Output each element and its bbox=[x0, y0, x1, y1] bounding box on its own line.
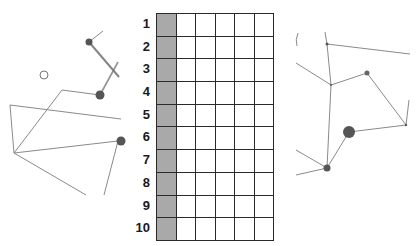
grid-cell bbox=[215, 104, 235, 127]
grid-cell bbox=[176, 104, 196, 127]
shaded-cell bbox=[157, 127, 177, 150]
grid-cell bbox=[235, 14, 255, 37]
grid-row bbox=[157, 82, 274, 105]
grid-cell bbox=[176, 150, 196, 173]
grid-cell bbox=[235, 150, 255, 173]
grid-cell bbox=[235, 104, 255, 127]
row-label: 8 bbox=[120, 172, 150, 195]
grid-cell bbox=[235, 59, 255, 82]
grid-row bbox=[157, 172, 274, 195]
star-dot-icon bbox=[330, 84, 332, 86]
grid-cell bbox=[215, 195, 235, 218]
grid-cell bbox=[215, 150, 235, 173]
star-dot-icon bbox=[405, 124, 407, 126]
star-dot-icon bbox=[365, 71, 370, 76]
recording-grid bbox=[156, 13, 274, 241]
shaded-cell bbox=[157, 218, 177, 241]
grid-cell bbox=[176, 14, 196, 37]
row-label: 6 bbox=[120, 126, 150, 149]
grid-cell bbox=[235, 82, 255, 105]
open-star-icon bbox=[40, 71, 48, 79]
grid-cell bbox=[176, 82, 196, 105]
grid-cell bbox=[196, 36, 216, 59]
grid-cell bbox=[196, 104, 216, 127]
grid-cell bbox=[215, 172, 235, 195]
grid-cell bbox=[254, 127, 274, 150]
row-label: 9 bbox=[120, 195, 150, 218]
shaded-cell bbox=[157, 195, 177, 218]
row-label: 3 bbox=[120, 58, 150, 81]
grid-cell bbox=[254, 36, 274, 59]
grid-cell bbox=[215, 36, 235, 59]
row-label: 2 bbox=[120, 36, 150, 59]
grid-cell bbox=[235, 172, 255, 195]
shaded-cell bbox=[157, 14, 177, 37]
grid-cell bbox=[254, 195, 274, 218]
grid-cell bbox=[254, 218, 274, 241]
grid-cell bbox=[176, 59, 196, 82]
shaded-cell bbox=[157, 59, 177, 82]
grid-row bbox=[157, 195, 274, 218]
shaded-cell bbox=[157, 172, 177, 195]
grid-cell bbox=[196, 150, 216, 173]
grid-cell bbox=[196, 172, 216, 195]
grid-cell bbox=[254, 59, 274, 82]
star-dot-icon bbox=[326, 43, 329, 46]
grid-row bbox=[157, 127, 274, 150]
row-labels: 1 2 3 4 5 6 7 8 9 10 bbox=[120, 13, 150, 240]
shaded-cell bbox=[157, 104, 177, 127]
grid-cell bbox=[215, 218, 235, 241]
grid-cell bbox=[196, 14, 216, 37]
star-dot-icon bbox=[96, 91, 105, 100]
grid-row bbox=[157, 104, 274, 127]
grid-cell bbox=[176, 195, 196, 218]
shaded-cell bbox=[157, 82, 177, 105]
grid-cell bbox=[235, 195, 255, 218]
grid-row bbox=[157, 218, 274, 241]
grid-cell bbox=[215, 127, 235, 150]
star-dot-icon bbox=[343, 126, 355, 138]
shaded-cell bbox=[157, 150, 177, 173]
row-label: 10 bbox=[120, 217, 150, 240]
star-dot-icon bbox=[86, 39, 93, 46]
row-label: 1 bbox=[120, 13, 150, 36]
grid-cell bbox=[235, 127, 255, 150]
grid-cell bbox=[196, 195, 216, 218]
grid-cell bbox=[235, 36, 255, 59]
right-constellation bbox=[296, 32, 410, 175]
grid-cell bbox=[254, 172, 274, 195]
shaded-cell bbox=[157, 36, 177, 59]
row-label: 7 bbox=[120, 149, 150, 172]
grid-cell bbox=[254, 82, 274, 105]
row-label: 5 bbox=[120, 104, 150, 127]
grid-cell bbox=[235, 218, 255, 241]
grid-cell bbox=[176, 218, 196, 241]
grid-row bbox=[157, 59, 274, 82]
grid-cell bbox=[196, 59, 216, 82]
star-dot-icon bbox=[324, 165, 331, 172]
grid-row bbox=[157, 150, 274, 173]
grid-cell bbox=[176, 36, 196, 59]
grid-row bbox=[157, 14, 274, 37]
row-label: 4 bbox=[120, 81, 150, 104]
grid-cell bbox=[254, 150, 274, 173]
grid-cell bbox=[254, 104, 274, 127]
grid-cell bbox=[254, 14, 274, 37]
grid-row bbox=[157, 36, 274, 59]
grid-cell bbox=[176, 127, 196, 150]
grid-cell bbox=[215, 14, 235, 37]
grid-cell bbox=[196, 218, 216, 241]
grid-cell bbox=[196, 127, 216, 150]
left-constellation bbox=[10, 31, 126, 195]
grid-cell bbox=[215, 59, 235, 82]
grid-cell bbox=[176, 172, 196, 195]
grid-cell bbox=[215, 82, 235, 105]
grid-cell bbox=[196, 82, 216, 105]
